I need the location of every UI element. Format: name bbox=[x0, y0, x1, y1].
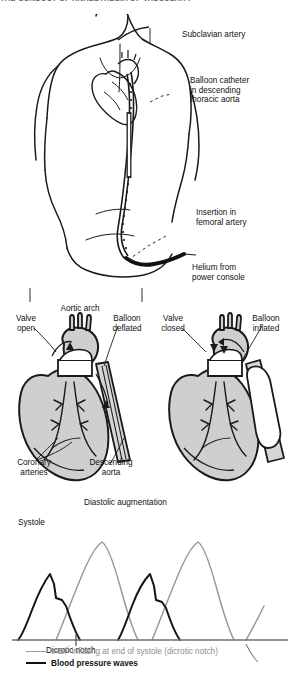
label-insertion-femoral: Insertion in femoral artery bbox=[196, 208, 247, 227]
label-helium-console: Helium from power console bbox=[192, 263, 245, 282]
label-aortic-arch: Aortic arch bbox=[46, 304, 114, 314]
label-balloon-deflated: Balloon deflated bbox=[104, 314, 150, 333]
torso-diagram: Subclavian artery Balloon catheter in de… bbox=[0, 14, 296, 286]
label-descending-aorta: Descending aorta bbox=[76, 458, 146, 477]
legend-swatch-black-line bbox=[26, 662, 46, 664]
label-systole: Systole bbox=[18, 518, 45, 528]
legend-label-iabp-inflating: IABP inflating at end of systole (dicrot… bbox=[51, 647, 218, 656]
label-balloon-catheter: Balloon catheter in descending thoracic … bbox=[190, 76, 249, 105]
label-valve-closed: Valve closed bbox=[150, 314, 196, 333]
label-subclavian-artery: Subclavian artery bbox=[182, 30, 245, 40]
heart-diagram: Valve open Aortic arch Balloon deflated … bbox=[0, 288, 296, 492]
legend-item-iabp-inflating: IABP inflating at end of systole (dicrot… bbox=[26, 645, 288, 657]
label-valve-open: Valve open bbox=[4, 314, 48, 333]
running-head: THE CONDUCT OF ANAESTHESIA OF VASCULAR P bbox=[0, 0, 296, 3]
legend-label-bp-waves: Blood pressure waves bbox=[51, 659, 138, 668]
label-balloon-inflated: Balloon inflated bbox=[240, 314, 292, 333]
label-diastolic-augmentation: Diastolic augmentation bbox=[84, 498, 167, 508]
label-coronary-arteries: Coronary arteries bbox=[4, 458, 64, 477]
legend-item-bp-waves: Blood pressure waves bbox=[26, 657, 288, 669]
chart-legend: IABP inflating at end of systole (dicrot… bbox=[26, 645, 288, 669]
figure-page: THE CONDUCT OF ANAESTHESIA OF VASCULAR P bbox=[0, 0, 296, 674]
legend-swatch-gray-line bbox=[26, 651, 46, 652]
